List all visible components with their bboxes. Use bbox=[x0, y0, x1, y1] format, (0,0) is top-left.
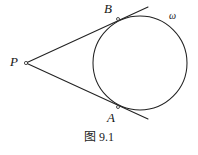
label-point-a: A bbox=[107, 111, 115, 124]
point-marker-a bbox=[117, 106, 120, 109]
point-marker-b bbox=[117, 18, 120, 21]
tangent-line-pa bbox=[26, 63, 148, 119]
label-point-b: B bbox=[104, 2, 112, 15]
figure-caption: 图 9.1 bbox=[0, 131, 198, 144]
label-point-p: P bbox=[10, 55, 18, 68]
tangent-line-pb bbox=[26, 7, 148, 63]
circle-omega bbox=[93, 16, 187, 110]
geometry-figure: P B A ω 图 9.1 bbox=[0, 0, 198, 155]
point-marker-p bbox=[24, 61, 27, 64]
label-circle-omega: ω bbox=[169, 11, 176, 21]
